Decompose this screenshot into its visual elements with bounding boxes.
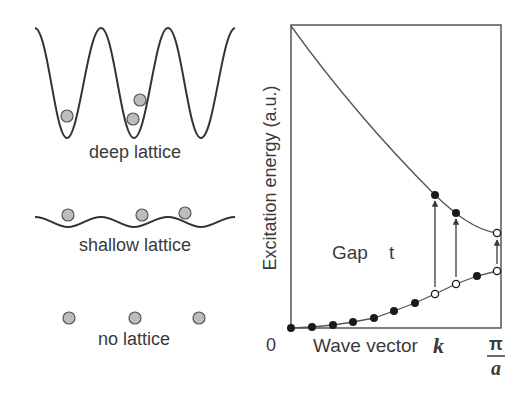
data-point-filled — [452, 209, 460, 217]
lower-band-curve — [291, 271, 497, 328]
data-point-filled — [390, 307, 398, 315]
t-annotation: t — [389, 242, 395, 263]
x-axis-label: Wave vector — [313, 335, 419, 356]
no-lattice-label: no lattice — [98, 329, 170, 349]
atom — [134, 94, 146, 106]
upper-band-curve — [291, 26, 497, 233]
data-point-filled — [473, 272, 481, 280]
data-point-filled — [349, 318, 357, 326]
xmax-denominator: a — [491, 357, 501, 379]
atom — [61, 110, 73, 122]
data-point-filled — [411, 299, 419, 307]
dispersion-chart: Gap t Excitation energy (a.u.) 0 Wave ve… — [260, 25, 505, 379]
gap-annotation: Gap — [332, 242, 368, 263]
atom — [193, 312, 205, 324]
data-point-filled — [287, 324, 295, 332]
atom — [179, 207, 191, 219]
shallow-lattice-diagram: shallow lattice — [35, 207, 235, 255]
x-axis-symbol: k — [433, 333, 444, 358]
data-point-open — [452, 280, 459, 287]
xmax-numerator: π — [489, 334, 503, 354]
data-point-open — [493, 267, 500, 274]
lower-band-markers — [287, 267, 501, 332]
atom — [127, 113, 139, 125]
data-point-filled — [308, 323, 316, 331]
shallow-lattice-label: shallow lattice — [79, 235, 191, 255]
data-point-open — [431, 290, 438, 297]
deep-lattice-label: deep lattice — [89, 142, 181, 162]
atom — [63, 312, 75, 324]
data-point-filled — [329, 321, 337, 329]
plot-frame — [291, 25, 501, 328]
atom — [136, 209, 148, 221]
data-point-open — [493, 229, 500, 236]
upper-band-markers — [431, 191, 501, 237]
data-point-filled — [370, 314, 378, 322]
figure: deep lattice shallow lattice no lattice — [0, 0, 531, 400]
atom — [62, 209, 74, 221]
data-point-filled — [431, 191, 439, 199]
y-axis-label: Excitation energy (a.u.) — [260, 85, 280, 270]
deep-lattice-diagram: deep lattice — [35, 28, 235, 162]
atom — [129, 312, 141, 324]
origin-label: 0 — [266, 335, 276, 355]
no-lattice-diagram: no lattice — [63, 312, 205, 349]
